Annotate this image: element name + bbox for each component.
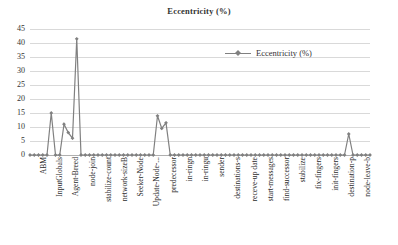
y-axis-tick-label: 20 (17, 95, 25, 103)
x-axis-tick-label: Update-Node-... (153, 157, 161, 206)
x-axis-tick-label: ABM (40, 157, 48, 174)
x-axis-tick-label: Agent-Breed (72, 157, 80, 196)
y-axis-tick-label: 35 (17, 53, 25, 61)
eccentricity-chart: Eccentricity (%) 051015202530354045 Ecce… (0, 0, 398, 245)
data-point-marker (49, 111, 53, 115)
x-axis-tick-label: network-sizeB (121, 157, 129, 201)
data-series-line (30, 29, 370, 155)
x-axis-tick-label: node-join (89, 157, 97, 186)
x-axis-tick-label: find-successor (283, 157, 291, 201)
y-axis-tick-label: 15 (17, 109, 25, 117)
plot-area (30, 29, 370, 155)
x-axis-tick-label: receve-up date (251, 157, 259, 201)
x-axis-tick-label: stabilize-count (105, 157, 113, 202)
x-axis-tick-label: in-ringn (186, 157, 194, 181)
x-axis-tick-label: start-messages (267, 157, 275, 201)
chart-legend: Eccentricity (%) (225, 48, 312, 58)
y-axis-labels: 051015202530354045 (0, 29, 28, 155)
y-axis-tick-label: 45 (17, 25, 25, 33)
data-point-marker (347, 132, 351, 136)
data-point-marker (75, 37, 79, 41)
legend-label: Eccentricity (%) (256, 48, 312, 58)
chart-title: Eccentricity (%) (0, 6, 398, 16)
y-axis-tick-label: 0 (21, 151, 25, 159)
x-axis-tick-label: Seeker-Node (137, 157, 145, 197)
y-axis-tick-label: 10 (17, 123, 25, 131)
y-axis-tick-label: 30 (17, 67, 25, 75)
x-axis-tick-label: predecessor (170, 157, 178, 193)
data-point-marker (156, 114, 160, 118)
x-axis-tick-label: InputGlobals (56, 157, 64, 197)
x-axis-tick-label: fix-fingers (315, 157, 323, 189)
y-axis-tick-label: 40 (17, 39, 25, 47)
x-axis-tick-label: sender (218, 157, 226, 177)
x-axis-tick-label: node-leave-b (364, 157, 372, 197)
x-axis-labels: ABMInputGlobalsAgent-Breednode-joinstabi… (30, 157, 370, 243)
y-axis-tick-label: 5 (21, 137, 25, 145)
x-axis-tick-label: stabilize (299, 157, 307, 182)
x-axis-tick-label: init-fingers (332, 157, 340, 191)
legend-line-marker-icon (225, 49, 251, 58)
x-axis-tick-label: destinations-s (234, 157, 242, 199)
x-axis-tick-label: destination-p (348, 157, 356, 197)
series-polyline (30, 39, 370, 155)
x-axis-tick-label: in-ringu (202, 157, 210, 181)
y-axis-tick-label: 25 (17, 81, 25, 89)
